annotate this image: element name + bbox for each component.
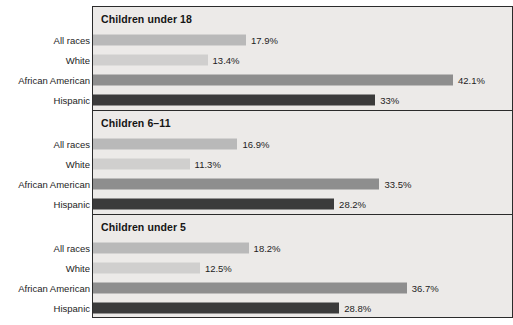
bar-line: 36.7% — [93, 282, 439, 293]
bar-all-races — [93, 242, 249, 253]
panel-rows: All races 18.2% White 12.5% — [93, 238, 512, 318]
bar-african-american — [93, 282, 407, 293]
bar-line: 16.9% — [93, 139, 269, 150]
bar-hispanic — [93, 95, 375, 106]
bar-african-american — [93, 179, 379, 190]
chart-area: Children under 18 All races 17.9% White — [0, 6, 513, 318]
bar-white — [93, 159, 190, 170]
bar-line: 12.5% — [93, 262, 232, 273]
bar-hispanic — [93, 199, 334, 210]
category-label-all-races: All races — [54, 139, 90, 150]
bar-white — [93, 55, 208, 66]
category-label-white: White — [66, 55, 90, 66]
bar-value-label: 16.9% — [242, 139, 269, 150]
bar-row: White 12.5% — [93, 258, 512, 278]
category-label-all-races: All races — [54, 242, 90, 253]
bar-value-label: 33% — [380, 95, 399, 106]
panel-title: Children under 5 — [101, 221, 186, 233]
bar-row: All races 17.9% — [93, 30, 512, 50]
bar-row: African American 42.1% — [93, 70, 512, 90]
bar-white — [93, 262, 200, 273]
bar-row: African American 33.5% — [93, 174, 512, 194]
bar-line: 11.3% — [93, 159, 221, 170]
bar-value-label: 18.2% — [254, 242, 281, 253]
bar-value-label: 33.5% — [384, 179, 411, 190]
category-label-african-american: African American — [18, 179, 90, 190]
category-label-african-american: African American — [18, 282, 90, 293]
bar-line: 28.2% — [93, 199, 366, 210]
panel-children-under-18: Children under 18 All races 17.9% White — [93, 7, 512, 110]
panel-title: Children under 18 — [101, 13, 192, 25]
panel-rows: All races 17.9% White 13.4% — [93, 30, 512, 110]
bar-line: 18.2% — [93, 242, 281, 253]
bar-value-label: 11.3% — [195, 159, 221, 170]
bar-value-label: 28.8% — [344, 302, 371, 313]
bar-all-races — [93, 139, 237, 150]
category-label-african-american: African American — [18, 75, 90, 86]
bar-line: 33.5% — [93, 179, 411, 190]
bar-line: 28.8% — [93, 302, 371, 313]
panel-rows: All races 16.9% White 11.3% — [93, 134, 512, 214]
bar-value-label: 13.4% — [213, 55, 240, 66]
bar-line: 13.4% — [93, 55, 240, 66]
bar-row: Hispanic 28.2% — [93, 194, 512, 214]
bar-line: 42.1% — [93, 75, 485, 86]
category-label-hispanic: Hispanic — [54, 95, 90, 106]
bar-value-label: 28.2% — [339, 199, 366, 210]
bar-chart-figure: Children under 18 All races 17.9% White — [0, 0, 513, 325]
bar-row: All races 18.2% — [93, 238, 512, 258]
bar-row: Hispanic 33% — [93, 90, 512, 110]
bar-value-label: 42.1% — [458, 75, 485, 86]
bar-all-races — [93, 35, 246, 46]
category-label-hispanic: Hispanic — [54, 199, 90, 210]
bar-line: 33% — [93, 95, 399, 106]
bar-hispanic — [93, 302, 339, 313]
panel-stack: Children under 18 All races 17.9% White — [92, 6, 513, 318]
category-label-all-races: All races — [54, 35, 90, 46]
bar-african-american — [93, 75, 453, 86]
category-label-white: White — [66, 159, 90, 170]
bar-row: White 13.4% — [93, 50, 512, 70]
category-label-white: White — [66, 262, 90, 273]
bar-row: African American 36.7% — [93, 278, 512, 298]
bar-line: 17.9% — [93, 35, 278, 46]
bar-row: Hispanic 28.8% — [93, 298, 512, 318]
bar-value-label: 17.9% — [251, 35, 278, 46]
category-label-hispanic: Hispanic — [54, 302, 90, 313]
panel-title: Children 6–11 — [101, 117, 171, 129]
panel-children-under-5: Children under 5 All races 18.2% White — [93, 214, 512, 317]
bar-row: White 11.3% — [93, 154, 512, 174]
bar-value-label: 12.5% — [205, 262, 232, 273]
panel-children-6-11: Children 6–11 All races 16.9% White 1 — [93, 110, 512, 213]
bar-value-label: 36.7% — [412, 282, 439, 293]
bar-row: All races 16.9% — [93, 134, 512, 154]
